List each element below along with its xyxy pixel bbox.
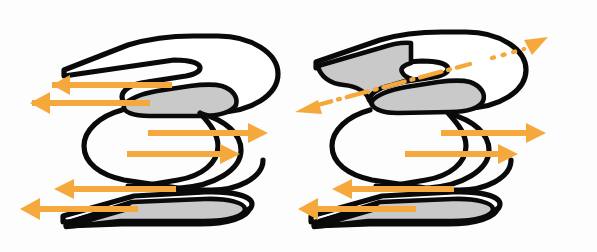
fold-diagram-svg xyxy=(0,0,597,252)
fold-diagram-figure: Flexural slip folding diagrams xyxy=(0,0,597,252)
